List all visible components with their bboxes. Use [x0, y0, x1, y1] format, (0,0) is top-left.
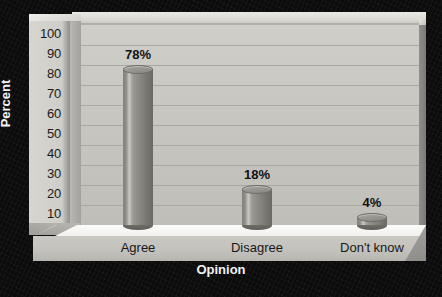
bar-value-label: 18% [244, 167, 270, 182]
bar-cylinder-body [242, 189, 272, 225]
chart-figure: 1009080706050403020100 78%18%4% AgreeDis… [0, 0, 442, 297]
y-axis-tick-label: 10 [21, 207, 61, 220]
x-axis-category-label: Don't know [340, 240, 404, 255]
y-axis-tick-label: 40 [21, 147, 61, 160]
y-axis-shadow [62, 21, 70, 227]
y-axis-tick-label: 20 [21, 187, 61, 200]
bar-cylinder-body [123, 69, 153, 225]
y-axis-tick-label: 60 [21, 107, 61, 120]
bar-value-label: 4% [363, 195, 382, 210]
bar-top-ellipse [123, 65, 153, 74]
bar-don-t-know: 4% [357, 217, 387, 225]
y-axis-tick-label: 100 [21, 27, 61, 40]
bar-top-ellipse [357, 213, 387, 222]
back-wall-right-edge [419, 25, 426, 225]
y-axis-tick-label: 70 [21, 87, 61, 100]
y-axis-tick-label: 90 [21, 47, 61, 60]
x-axis-category-label: Disagree [231, 240, 283, 255]
chart-3d-block: 1009080706050403020100 78%18%4% AgreeDis… [17, 12, 426, 260]
x-axis-category-label: Agree [121, 240, 156, 255]
y-axis-tick-label: 30 [21, 167, 61, 180]
bar-disagree: 18% [242, 189, 272, 225]
bar-value-label: 78% [125, 47, 151, 62]
x-axis-title: Opinion [0, 262, 442, 277]
bar-top-ellipse [242, 185, 272, 194]
y-axis-title: Percent [0, 80, 13, 128]
y-axis-tick-label: 80 [21, 67, 61, 80]
bar-agree: 78% [123, 69, 153, 225]
gridline [81, 45, 419, 46]
y-axis-tick-label: 50 [21, 127, 61, 140]
y-axis-column: 1009080706050403020100 [29, 21, 81, 227]
